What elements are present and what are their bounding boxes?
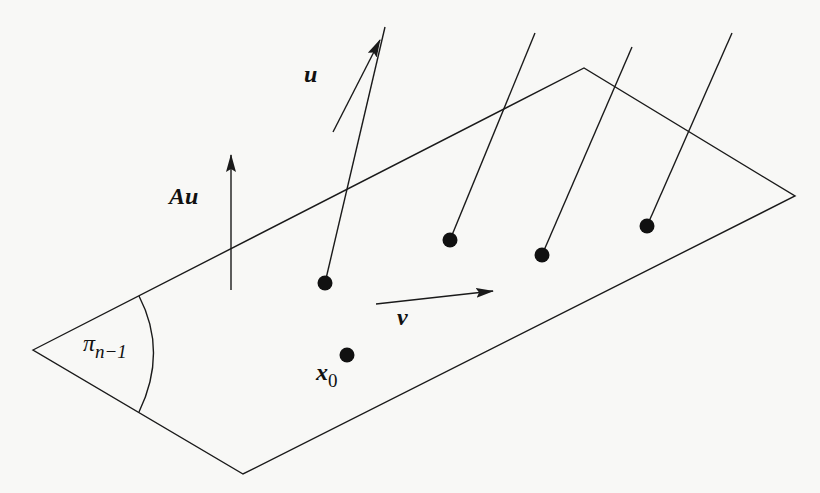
point-3-dot bbox=[535, 248, 550, 263]
plane-parallelogram bbox=[33, 68, 795, 474]
vector-v-label: v bbox=[397, 305, 408, 329]
point-x0-label-subscript: 0 bbox=[328, 370, 338, 391]
point-3-line bbox=[542, 47, 632, 255]
plane-label-subscript: n−1 bbox=[95, 341, 127, 362]
diagram-svg bbox=[0, 0, 820, 493]
point-1-dot bbox=[318, 276, 333, 291]
diagram-canvas: u Au v πn−1 x0 bbox=[0, 0, 820, 493]
plane-angle-arc bbox=[139, 296, 154, 412]
vector-u-label: u bbox=[304, 62, 317, 86]
point-2-dot bbox=[443, 233, 458, 248]
point-x0-label: x0 bbox=[316, 360, 338, 390]
plane-label-base: π bbox=[83, 330, 95, 356]
point-x0-label-base: x bbox=[316, 359, 328, 385]
point-4-dot bbox=[640, 219, 655, 234]
vector-v-arrow bbox=[376, 291, 493, 304]
vector-Au-label: Au bbox=[169, 184, 198, 208]
point-2-line bbox=[450, 33, 535, 240]
vector-u-arrow bbox=[333, 40, 380, 132]
point-x0-dot bbox=[340, 348, 355, 363]
point-4-line bbox=[647, 33, 732, 226]
point-1-line bbox=[325, 27, 385, 283]
plane-label: πn−1 bbox=[83, 331, 127, 361]
